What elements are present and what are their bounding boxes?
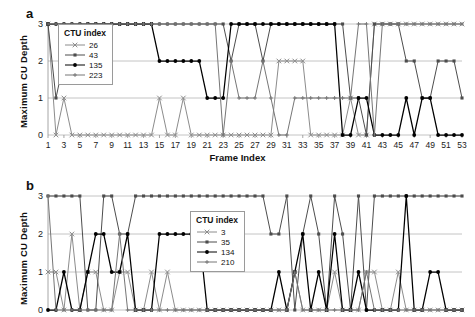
x-tick-17: 17: [171, 140, 180, 150]
x-tick-33: 33: [298, 140, 307, 150]
x-tick-49: 49: [425, 140, 434, 150]
x-tick-1: 1: [46, 140, 51, 150]
x-tick-29: 29: [266, 140, 275, 150]
legend-title-b: CTU index: [196, 215, 238, 225]
x-tick-5: 5: [77, 140, 82, 150]
x-tick-15: 15: [155, 140, 164, 150]
legend-item-210: 210: [196, 257, 238, 267]
legend-entries-a: 2643135223: [64, 40, 106, 80]
x-tick-23: 23: [218, 140, 227, 150]
x-tick-13: 13: [139, 140, 148, 150]
legend-label-135: 135: [89, 61, 102, 70]
x-tick-11: 11: [123, 140, 132, 150]
legend-swatch-26: [64, 40, 86, 50]
legend-label-223: 223: [89, 71, 102, 80]
legend-label-210: 210: [221, 258, 234, 267]
y-axis-label-a: Maximum CU Depth: [18, 35, 29, 128]
x-tick-47: 47: [409, 140, 418, 150]
panel-label-b: b: [26, 178, 34, 193]
x-tick-31: 31: [282, 140, 291, 150]
x-axis-label-a: Frame Index: [0, 152, 475, 163]
legend-title-a: CTU index: [64, 28, 106, 38]
x-tick-37: 37: [330, 140, 339, 150]
x-tick-41: 41: [362, 140, 371, 150]
legend-label-3: 3: [221, 228, 225, 237]
legend-swatch-134: [196, 247, 218, 257]
legend-item-223: 223: [64, 70, 106, 80]
legend-swatch-35: [196, 237, 218, 247]
series-35: [46, 194, 463, 311]
legend-label-134: 134: [221, 248, 234, 257]
x-tick-9: 9: [109, 140, 114, 150]
x-tick-51: 51: [441, 140, 450, 150]
chart-svg: [48, 196, 462, 310]
legend-item-26: 26: [64, 40, 106, 50]
y-tick-1: 1: [38, 93, 43, 103]
x-tick-3: 3: [62, 140, 67, 150]
chart-panel-b: b Maximum CU Depth 0123 CTU index 335134…: [0, 170, 475, 317]
y-axis-label-b: Maximum CU Depth: [18, 212, 29, 305]
series-210: [46, 194, 464, 312]
series-134: [46, 194, 464, 312]
y-tick-3: 3: [38, 19, 43, 29]
figure-container: a Maximum CU Depth 012313579111315171921…: [0, 0, 475, 317]
x-tick-35: 35: [314, 140, 323, 150]
legend-a: CTU index 2643135223: [58, 24, 113, 85]
x-tick-25: 25: [234, 140, 243, 150]
legend-label-26: 26: [89, 41, 98, 50]
x-tick-39: 39: [346, 140, 355, 150]
y-tick-2: 2: [38, 56, 43, 66]
legend-item-135: 135: [64, 60, 106, 70]
legend-item-35: 35: [196, 237, 238, 247]
legend-label-35: 35: [221, 238, 230, 247]
legend-swatch-3: [196, 227, 218, 237]
y-tick-0: 0: [38, 305, 43, 315]
x-tick-53: 53: [457, 140, 466, 150]
legend-swatch-223: [64, 70, 86, 80]
legend-item-3: 3: [196, 227, 238, 237]
x-tick-27: 27: [250, 140, 259, 150]
panel-label-a: a: [26, 6, 33, 21]
x-tick-43: 43: [378, 140, 387, 150]
y-tick-2: 2: [38, 229, 43, 239]
x-tick-7: 7: [93, 140, 98, 150]
legend-swatch-43: [64, 50, 86, 60]
legend-label-43: 43: [89, 51, 98, 60]
legend-item-134: 134: [196, 247, 238, 257]
y-tick-1: 1: [38, 267, 43, 277]
y-tick-3: 3: [38, 191, 43, 201]
legend-swatch-210: [196, 257, 218, 267]
legend-item-43: 43: [64, 50, 106, 60]
plot-area-b: 0123: [48, 196, 462, 310]
x-tick-21: 21: [202, 140, 211, 150]
x-tick-19: 19: [187, 140, 196, 150]
chart-panel-a: a Maximum CU Depth 012313579111315171921…: [0, 0, 475, 170]
y-tick-0: 0: [38, 130, 43, 140]
legend-b: CTU index 335134210: [190, 211, 245, 272]
legend-entries-b: 335134210: [196, 227, 238, 267]
legend-swatch-135: [64, 60, 86, 70]
x-tick-45: 45: [394, 140, 403, 150]
